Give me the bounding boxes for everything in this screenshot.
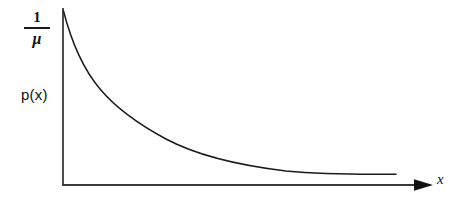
exponential-density-figure: 1 μ p(x) x (0, 0, 465, 205)
fraction-denominator: μ (22, 31, 52, 47)
y-axis-label: p(x) (21, 87, 48, 102)
x-axis-label: x (437, 172, 444, 187)
fraction-bar (24, 27, 50, 29)
plot-canvas (0, 0, 465, 205)
fraction-numerator: 1 (22, 10, 52, 26)
y-axis-max-value-label: 1 μ (22, 10, 52, 47)
density-curve (64, 11, 397, 174)
x-axis-arrowhead-icon (414, 179, 433, 191)
